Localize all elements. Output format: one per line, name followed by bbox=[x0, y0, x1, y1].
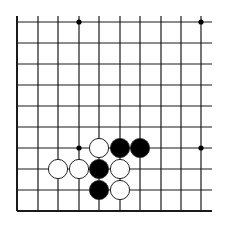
white-stone bbox=[69, 159, 88, 178]
black-stone bbox=[110, 138, 129, 157]
go-board-diagram bbox=[0, 0, 226, 229]
star-point-icon bbox=[76, 145, 81, 150]
star-point-icon bbox=[76, 19, 81, 24]
star-point-icon bbox=[198, 19, 203, 24]
white-stone bbox=[110, 159, 129, 178]
black-stone bbox=[89, 180, 108, 199]
star-point-icon bbox=[198, 145, 203, 150]
white-stone bbox=[89, 138, 108, 157]
black-stone bbox=[130, 138, 149, 157]
white-stone bbox=[48, 159, 67, 178]
white-stone bbox=[110, 180, 129, 199]
black-stone bbox=[89, 159, 108, 178]
